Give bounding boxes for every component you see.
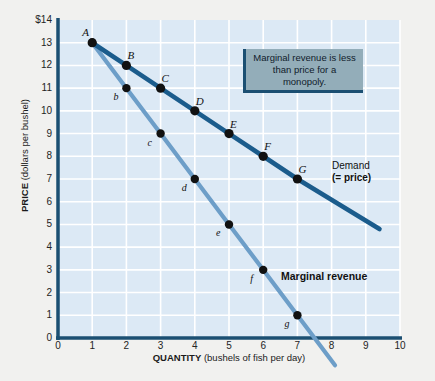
data-point-label: E (230, 118, 237, 130)
callout-box: Marginal revenue is less than price for … (243, 49, 363, 93)
y-axis-tick-label: $14 (12, 15, 52, 25)
data-point-label: D (196, 95, 204, 107)
data-point-label: e (216, 227, 220, 238)
marginal-revenue-curve-label: Marginal revenue (281, 270, 367, 282)
x-axis-title: QUANTITY (bushels of fish per day) (58, 352, 400, 363)
x-axis-tick-label: 0 (46, 341, 70, 351)
y-axis-tick-label: 2 (12, 288, 52, 298)
data-point-marker (224, 129, 233, 138)
data-point-label: A (82, 26, 89, 38)
data-point-marker (259, 152, 268, 161)
x-axis-title-bold: QUANTITY (153, 352, 202, 363)
y-axis-title: PRICE (dollars per bushel) (19, 71, 30, 241)
data-point-label: G (298, 163, 306, 175)
data-point-marker (191, 175, 199, 183)
economics-chart-figure: $14131211109876543210 012345678910 ABCDE… (0, 0, 435, 381)
callout-text: Marginal revenue is less than price for … (251, 52, 358, 88)
data-point-marker (156, 84, 165, 93)
x-axis-title-rest: (bushels of fish per day) (201, 352, 305, 363)
demand-curve-label-line1: Demand (332, 160, 371, 172)
data-point-label: C (162, 72, 169, 84)
y-axis-title-rest: (dollars per bushel) (19, 99, 30, 183)
y-axis-tick-label: 12 (12, 60, 52, 70)
x-axis-tick-label: 10 (388, 341, 412, 351)
x-axis-tick-label: 4 (183, 341, 207, 351)
data-point-label: g (284, 318, 289, 329)
y-axis-tick-label: 4 (12, 242, 52, 252)
y-axis-tick-label: 1 (12, 310, 52, 320)
x-axis-tick-label: 7 (285, 341, 309, 351)
demand-curve-label-line2: (= price) (332, 172, 371, 184)
data-point-label: d (182, 182, 187, 193)
data-point-label: B (127, 49, 134, 61)
y-axis-tick-label: 3 (12, 265, 52, 275)
data-point-marker (156, 129, 164, 137)
data-point-marker (122, 61, 131, 70)
data-point-marker (259, 266, 267, 274)
data-point-label: c (148, 137, 152, 148)
x-axis-tick-label: 8 (320, 341, 344, 351)
data-point-marker (293, 311, 301, 319)
data-point-label: F (264, 140, 271, 152)
data-point-marker (88, 38, 97, 47)
y-axis-tick-label: 13 (12, 38, 52, 48)
x-axis-tick-label: 1 (80, 341, 104, 351)
plot-canvas (0, 0, 435, 381)
x-axis-tick-label: 5 (217, 341, 241, 351)
data-point-marker (122, 84, 130, 92)
x-axis-tick-label: 9 (354, 341, 378, 351)
data-point-label: b (113, 91, 118, 102)
x-axis-tick-label: 3 (149, 341, 173, 351)
data-point-label: f (250, 273, 253, 284)
x-axis-tick-label: 6 (251, 341, 275, 351)
data-point-marker (190, 106, 199, 115)
data-point-marker (225, 220, 233, 228)
x-axis-tick-label: 2 (114, 341, 138, 351)
y-axis-title-bold: PRICE (19, 183, 30, 212)
data-point-marker (293, 174, 302, 183)
demand-curve-label: Demand (= price) (332, 160, 371, 184)
